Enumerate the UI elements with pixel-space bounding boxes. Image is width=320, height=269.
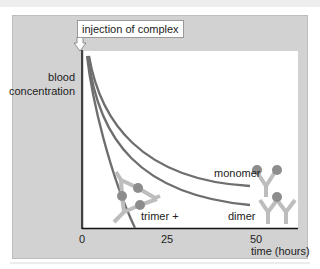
x-tick-0: 0 — [79, 233, 85, 245]
x-axis-label: time (hours) — [251, 245, 310, 257]
injection-label: injection of complex — [77, 20, 184, 38]
injection-arrow-icon — [74, 37, 86, 51]
y-axis-label: blood concentration — [9, 70, 75, 98]
y-axis-label-line2: concentration — [9, 84, 75, 98]
x-tick-50: 50 — [250, 233, 262, 245]
y-axis-label-line1: blood — [9, 70, 75, 84]
dimer-label: dimer — [228, 210, 256, 222]
x-tick-25: 25 — [161, 233, 173, 245]
chart-svg — [0, 0, 320, 269]
bottom-band — [10, 262, 310, 264]
trimer-label: trimer + — [141, 210, 179, 222]
monomer-label: monomer — [214, 167, 260, 179]
